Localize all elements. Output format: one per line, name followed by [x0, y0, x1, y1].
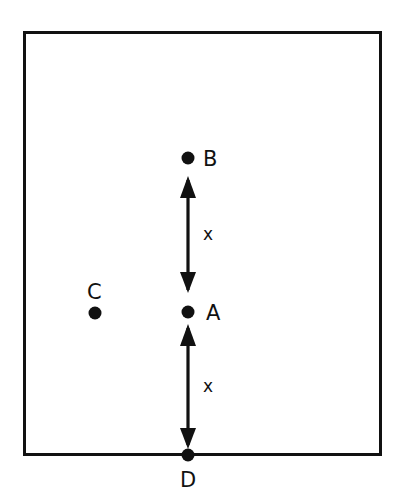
point-a-dot	[182, 306, 195, 319]
point-c-label: C	[87, 280, 102, 304]
point-a-label: A	[206, 301, 221, 325]
point-b-label: B	[203, 147, 217, 171]
arrow-lower-head-bottom	[180, 428, 196, 449]
point-b-dot	[182, 152, 195, 165]
arrow-upper-head-top	[180, 176, 196, 198]
arrow-upper-head-bottom	[180, 272, 196, 293]
point-d-dot	[182, 449, 195, 462]
double-arrow-lower	[180, 324, 196, 449]
geometry-diagram: B A C D x x	[0, 0, 404, 502]
diagram-canvas: B A C D x x	[0, 0, 404, 502]
distance-label-lower: x	[203, 376, 213, 396]
distance-label-upper: x	[203, 224, 213, 244]
point-d-label: D	[180, 468, 196, 492]
arrow-lower-head-top	[180, 324, 196, 346]
point-c-dot	[89, 307, 102, 320]
double-arrow-upper	[180, 176, 196, 293]
